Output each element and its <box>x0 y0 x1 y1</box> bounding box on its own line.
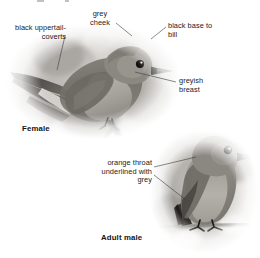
callout-grey-cheek: grey cheek <box>84 10 116 27</box>
top-crop-artifact-1 <box>37 0 44 2</box>
field-guide-plate: black uppertail- coverts grey cheek blac… <box>0 0 260 258</box>
adult-male-bird-photo <box>148 128 260 254</box>
callout-black-base-to-bill: black base to bill <box>168 22 252 39</box>
callout-orange-throat: orange throat underlined with grey <box>84 159 152 185</box>
label-female: Female <box>22 124 50 133</box>
label-adult-male: Adult male <box>101 233 142 242</box>
callout-uppertail-coverts: black uppertail- coverts <box>2 24 66 41</box>
top-crop-artifact-2 <box>65 0 69 2</box>
callout-greyish-breast: greyish breast <box>179 77 249 94</box>
